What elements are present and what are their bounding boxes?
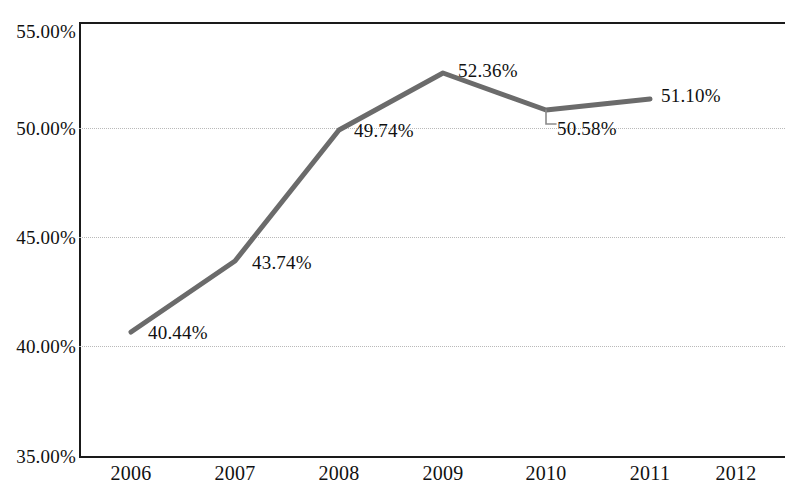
x-tick-label-2011: 2011 bbox=[630, 462, 670, 485]
x-tick-label-2006: 2006 bbox=[110, 462, 151, 485]
y-tick-label-40: 40.00% bbox=[0, 336, 76, 358]
data-label-2010: 50.58% bbox=[557, 118, 617, 140]
x-tick-label-2007: 2007 bbox=[214, 462, 255, 485]
y-tick-label-50: 50.00% bbox=[0, 118, 76, 140]
x-tick-label-2010: 2010 bbox=[525, 462, 566, 485]
x-tick-label-2009: 2009 bbox=[422, 462, 463, 485]
y-tick-label-55: 55.00% bbox=[0, 21, 76, 43]
gridline-45 bbox=[79, 237, 785, 238]
data-label-2007: 43.74% bbox=[252, 252, 312, 274]
y-tick-label-45: 45.00% bbox=[0, 227, 76, 249]
y-tick-label-35: 35.00% bbox=[0, 446, 76, 468]
gridline-50 bbox=[79, 128, 785, 129]
data-label-2009: 52.36% bbox=[458, 60, 518, 82]
data-label-2011: 51.10% bbox=[661, 85, 721, 107]
x-tick-label-2012: 2012 bbox=[715, 462, 756, 485]
line-chart: 55.00% 50.00% 45.00% 40.00% 35.00% 2006 … bbox=[0, 0, 789, 490]
gridline-40 bbox=[79, 346, 785, 347]
data-label-2006: 40.44% bbox=[148, 322, 208, 344]
x-tick-label-2008: 2008 bbox=[318, 462, 359, 485]
data-label-2008: 49.74% bbox=[354, 120, 414, 142]
